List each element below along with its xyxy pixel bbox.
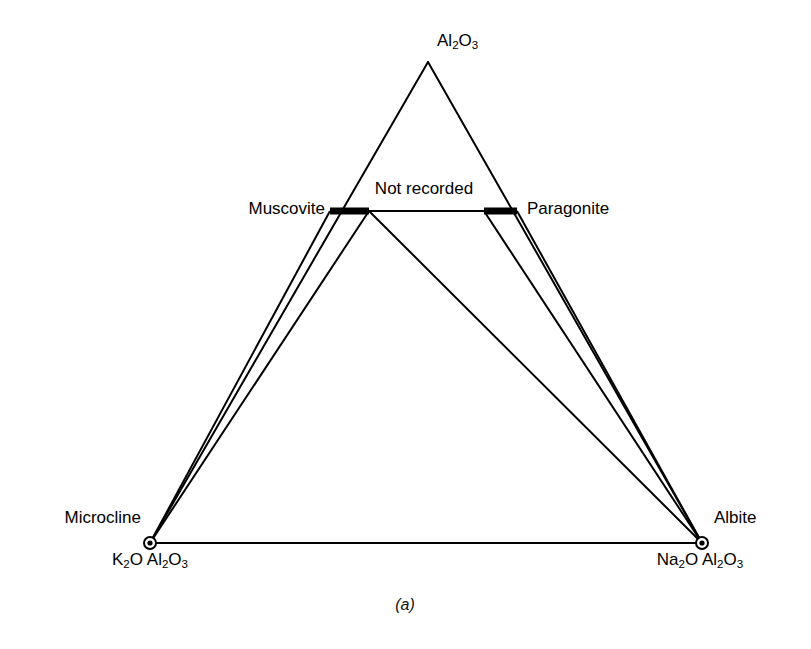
region-label-not-recorded: Not recorded — [375, 180, 473, 199]
vertex-formula-albite: Na2O Al2O3 — [657, 551, 743, 571]
figure-caption: (a) — [395, 596, 415, 614]
vertex-label-microcline: Microcline — [64, 509, 141, 528]
phase-label-muscovite: Muscovite — [248, 200, 325, 219]
tie-line-paragonite-albite-left — [484, 211, 702, 543]
vertex-formula-microcline: K2O Al2O3 — [112, 551, 188, 571]
muscovite-composition-bar — [330, 208, 369, 215]
triangle-edge-left — [150, 62, 428, 543]
tie-lines — [150, 211, 702, 543]
tie-line-muscovite-albite — [369, 211, 702, 543]
triangle-outline — [150, 62, 702, 543]
phase-label-paragonite: Paragonite — [527, 200, 609, 219]
tie-line-microcline-muscovite-lower — [150, 211, 369, 543]
ternary-phase-diagram-figure: Al2O3 Not recorded Muscovite Paragonite … — [0, 0, 811, 649]
albite-vertex-dot — [699, 540, 704, 545]
tie-line-paragonite-albite-right — [517, 211, 702, 543]
apex-label-alumina: Al2O3 — [437, 32, 478, 52]
tie-line-microcline-muscovite-upper — [150, 211, 330, 543]
paragonite-composition-bar — [484, 208, 517, 215]
vertex-label-albite: Albite — [714, 509, 757, 528]
microcline-vertex-dot — [147, 540, 152, 545]
